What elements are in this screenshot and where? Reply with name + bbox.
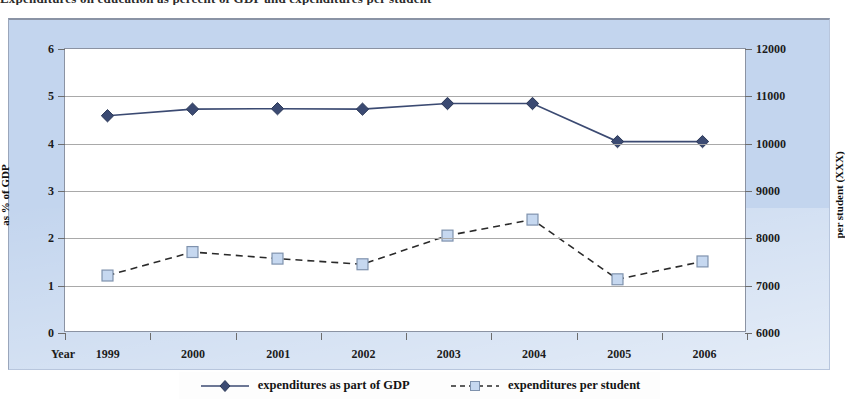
gridline: [65, 238, 745, 239]
right-axis-tick: [745, 49, 752, 50]
legend-item-per-student[interactable]: expenditures per student: [449, 378, 640, 393]
x-axis-tick: [150, 333, 151, 340]
x-axis-tick: [321, 333, 322, 340]
square-marker-icon: [449, 379, 501, 393]
left-axis-tick-label: 2: [48, 231, 54, 246]
data-point: [356, 103, 368, 115]
legend-item-gdp[interactable]: expenditures as part of GDP: [199, 378, 410, 393]
right-axis-tick-label: 12000: [756, 42, 786, 57]
x-axis-label-2001: 2001: [266, 347, 290, 362]
legend-label-gdp: expenditures as part of GDP: [258, 378, 410, 393]
x-axis-tick: [236, 333, 237, 340]
left-axis-tick: [58, 96, 65, 97]
data-point: [101, 110, 113, 122]
x-axis-tick: [577, 333, 578, 340]
right-axis-tick-label: 11000: [756, 89, 785, 104]
data-point: [272, 253, 283, 264]
left-axis-title: as % of GDP: [0, 164, 11, 225]
left-axis-tick: [58, 286, 65, 287]
left-axis-tick: [58, 144, 65, 145]
right-axis-tick-label: 7000: [756, 278, 780, 293]
left-axis-tick-label: 1: [48, 278, 54, 293]
chart-legend: expenditures as part of GDP expenditures…: [179, 372, 660, 399]
data-point: [357, 259, 368, 270]
x-axis-label-2004: 2004: [522, 347, 546, 362]
legend-label-per-student: expenditures per student: [508, 378, 640, 393]
x-axis-label-2000: 2000: [181, 347, 205, 362]
x-axis-tick: [406, 333, 407, 340]
right-axis-title: per student (XXX): [833, 151, 845, 238]
right-axis-tick: [745, 144, 752, 145]
x-axis-tick: [491, 333, 492, 340]
x-axis-label-1999: 1999: [96, 347, 120, 362]
right-axis-tick-label: 10000: [756, 136, 786, 151]
plot-area: 0123456600070008000900010000110001200019…: [64, 48, 746, 332]
figure-caption: Expenditures on education as percent of …: [0, 0, 838, 5]
gridline: [65, 191, 745, 192]
right-axis-tick: [745, 96, 752, 97]
x-axis-title: Year: [51, 347, 75, 362]
data-point: [697, 256, 708, 267]
left-axis-tick-label: 5: [48, 89, 54, 104]
right-axis-tick: [745, 286, 752, 287]
x-axis-label-2002: 2002: [351, 347, 375, 362]
left-axis-tick: [58, 333, 65, 334]
data-point: [102, 270, 113, 281]
x-axis-tick: [747, 333, 748, 340]
left-axis-tick: [58, 238, 65, 239]
data-point: [611, 135, 623, 147]
data-point: [527, 214, 538, 225]
x-axis-label-2006: 2006: [692, 347, 716, 362]
gridline: [65, 286, 745, 287]
right-axis-tick: [745, 238, 752, 239]
gridline: [65, 96, 745, 97]
right-axis-tick-label: 6000: [756, 326, 780, 341]
left-axis-tick-label: 3: [48, 184, 54, 199]
right-axis-tick: [745, 191, 752, 192]
data-point: [186, 103, 198, 115]
left-axis-tick-label: 0: [48, 326, 54, 341]
x-axis-tick: [662, 333, 663, 340]
x-axis-label-2003: 2003: [437, 347, 461, 362]
x-axis-label-2005: 2005: [607, 347, 631, 362]
data-point: [526, 97, 538, 109]
data-point: [696, 135, 708, 147]
x-axis-tick: [65, 333, 66, 340]
left-axis-tick-label: 6: [48, 42, 54, 57]
right-axis-tick-label: 9000: [756, 184, 780, 199]
left-axis-tick: [58, 49, 65, 50]
data-point: [271, 103, 283, 115]
data-point: [187, 247, 198, 258]
data-point: [442, 230, 453, 241]
gridline: [65, 144, 745, 145]
data-point: [441, 97, 453, 109]
left-axis-tick-label: 4: [48, 136, 54, 151]
data-series-overlay: [65, 49, 745, 331]
left-axis-tick: [58, 191, 65, 192]
data-point: [612, 274, 623, 285]
chart-panel: as % of GDP per student (XXX) 0123456600…: [8, 18, 830, 370]
diamond-marker-icon: [199, 379, 251, 393]
right-axis-tick-label: 8000: [756, 231, 780, 246]
